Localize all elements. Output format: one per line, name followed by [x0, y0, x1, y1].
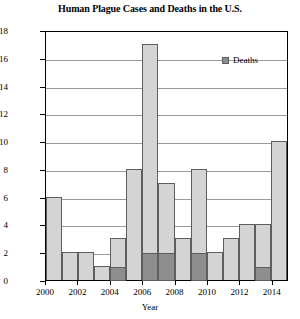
bar-cases-2009[interactable] — [191, 169, 207, 280]
bar-cases-2014[interactable] — [271, 141, 287, 280]
bar-series — [46, 32, 287, 280]
bar-cases-2000[interactable] — [46, 197, 62, 280]
bar-slot-2008[interactable] — [175, 32, 191, 280]
bar-slot-2006[interactable] — [142, 32, 158, 280]
y-tick-label-16: 16 — [0, 55, 8, 64]
bar-slot-2004[interactable] — [110, 32, 126, 280]
x-tick-mark-2000 — [45, 281, 46, 285]
bar-slot-2001[interactable] — [62, 32, 78, 280]
bar-cases-2001[interactable] — [62, 252, 78, 280]
bar-cases-2007[interactable] — [158, 183, 174, 280]
chart-container: Human Plague Cases and Deaths in the U.S… — [0, 0, 300, 319]
x-tick-mark-2010 — [207, 281, 208, 285]
bar-cases-2005[interactable] — [126, 169, 142, 280]
bar-cases-2008[interactable] — [175, 238, 191, 280]
bar-cases-2012[interactable] — [239, 224, 255, 280]
bar-slot-2009[interactable] — [191, 32, 207, 280]
y-tick-label-6: 6 — [0, 194, 8, 203]
bar-deaths-2006[interactable] — [142, 253, 158, 281]
bar-cases-2006[interactable] — [142, 44, 158, 280]
bar-cases-2002[interactable] — [78, 252, 94, 280]
chart-title: Human Plague Cases and Deaths in the U.S… — [0, 3, 300, 14]
bar-slot-2005[interactable] — [126, 32, 142, 280]
y-tick-label-8: 8 — [0, 166, 8, 175]
bar-slot-2003[interactable] — [94, 32, 110, 280]
legend-label-deaths: Deaths — [233, 55, 258, 65]
bar-slot-2002[interactable] — [78, 32, 94, 280]
x-tick-mark-2002 — [77, 281, 78, 285]
bar-deaths-2009[interactable] — [191, 253, 207, 281]
bar-deaths-2007[interactable] — [158, 253, 174, 281]
legend-swatch-deaths — [222, 57, 229, 64]
y-tick-label-10: 10 — [0, 138, 8, 147]
bar-cases-2011[interactable] — [223, 238, 239, 280]
y-tick-label-14: 14 — [0, 83, 8, 92]
legend: Deaths — [222, 55, 258, 65]
bar-slot-2012[interactable] — [239, 32, 255, 280]
x-tick-mark-2008 — [175, 281, 176, 285]
bar-cases-2003[interactable] — [94, 266, 110, 280]
bar-slot-2007[interactable] — [158, 32, 174, 280]
x-tick-mark-2004 — [110, 281, 111, 285]
bar-slot-2014[interactable] — [271, 32, 287, 280]
x-tick-label-2014: 2014 — [252, 287, 292, 297]
bar-cases-2004[interactable] — [110, 238, 126, 280]
x-axis-title: Year — [0, 302, 300, 312]
y-tick-label-12: 12 — [0, 110, 8, 119]
y-tick-label-0: 0 — [0, 277, 8, 286]
bar-slot-2013[interactable] — [255, 32, 271, 280]
bar-deaths-2004[interactable] — [110, 267, 126, 281]
bar-slot-2010[interactable] — [207, 32, 223, 280]
bar-slot-2011[interactable] — [223, 32, 239, 280]
bar-deaths-2013[interactable] — [255, 267, 271, 281]
x-tick-mark-2006 — [142, 281, 143, 285]
plot-area — [45, 31, 288, 281]
bar-cases-2010[interactable] — [207, 252, 223, 280]
y-tick-label-18: 18 — [0, 27, 8, 36]
x-tick-mark-2014 — [272, 281, 273, 285]
bar-cases-2013[interactable] — [255, 224, 271, 280]
x-tick-mark-2012 — [239, 281, 240, 285]
y-tick-label-2: 2 — [0, 249, 8, 258]
bar-slot-2000[interactable] — [46, 32, 62, 280]
y-tick-label-4: 4 — [0, 221, 8, 230]
